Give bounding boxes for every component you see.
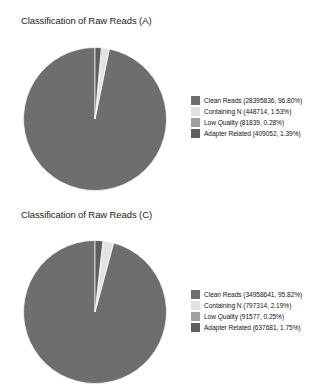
legend-item: Clean Reads (34958641, 95.82%) [191,289,331,300]
figure-raw-reads-c: Classification of Raw Reads (C) Clean Re… [0,194,331,388]
legend-item-label: Adapter Related (409052, 1.39%) [204,130,301,137]
legend-item-label: Containing N (797314, 2.19%) [204,302,291,309]
legend-c: Clean Reads (34958641, 95.82%) Containin… [191,289,331,333]
legend-item: Containing N (448714, 1.53%) [191,106,331,117]
legend-item: Clean Reads (28395836, 96.80%) [191,95,331,106]
legend-item-label: Low Quality (81839, 0.28%) [204,119,284,126]
legend-item: Low Quality (91577, 0.25%) [191,311,331,322]
legend-swatch-icon [191,312,200,321]
page-title-a: Classification of Raw Reads (A) [21,15,151,26]
legend-item-label: Clean Reads (34958641, 95.82%) [204,291,302,298]
legend-swatch-icon [191,290,200,299]
legend-swatch-icon [191,129,200,138]
legend-swatch-icon [191,96,200,105]
pie-svg-a [23,47,167,191]
legend-item: Containing N (797314, 2.19%) [191,300,331,311]
legend-swatch-icon [191,118,200,127]
legend-swatch-icon [191,107,200,116]
legend-item-label: Low Quality (91577, 0.25%) [204,313,284,320]
page-title-c: Classification of Raw Reads (C) [21,209,152,220]
legend-item-label: Adapter Related (637681, 1.75%) [204,324,301,331]
legend-swatch-icon [191,323,200,332]
figure-raw-reads-a: Classification of Raw Reads (A) Clean Re… [0,0,331,194]
legend-item: Low Quality (81839, 0.28%) [191,117,331,128]
legend-swatch-icon [191,301,200,310]
legend-item-label: Clean Reads (28395836, 96.80%) [204,97,302,104]
pie-chart-c [23,240,167,384]
legend-item: Adapter Related (637681, 1.75%) [191,322,331,333]
legend-item-label: Containing N (448714, 1.53%) [204,108,291,115]
pie-chart-a [23,47,167,191]
legend-a: Clean Reads (28395836, 96.80%) Containin… [191,95,331,139]
pie-svg-c [23,240,167,384]
legend-item: Adapter Related (409052, 1.39%) [191,128,331,139]
